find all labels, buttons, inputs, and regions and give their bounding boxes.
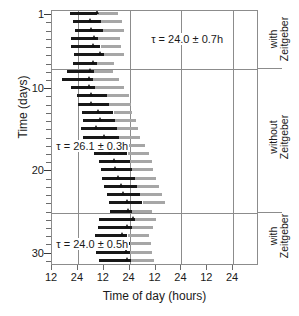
x-tick-label: 12 [91,271,115,283]
actogram-day-row [52,159,257,167]
activity-bar-light [97,12,118,15]
y-tick-label: 30 [18,247,44,259]
y-tick-major [44,14,51,15]
phase-marker-triangle [116,175,120,179]
activity-bar-light [137,185,159,188]
phase-marker-triangle [89,101,93,105]
phase-marker-triangle [91,60,95,64]
activity-bar-light [132,210,153,213]
y-tick-major [44,88,51,89]
phase-marker-triangle [112,158,116,162]
x-tick-label: 24 [65,271,89,283]
activity-bar-dark [70,12,97,15]
activity-bar-light [130,160,153,163]
actogram-day-row [52,44,257,52]
y-tick-label: 20 [18,164,44,176]
phase-marker-triangle [131,216,135,220]
activity-bar-light [117,127,139,130]
x-tick-label: 24 [220,271,244,283]
activity-bar-dark [99,218,135,221]
activity-bar-light [131,259,155,262]
actogram-day-row [52,225,257,233]
plot-area [51,10,258,265]
activity-bar-dark [78,103,109,106]
activity-bar-dark [81,127,117,130]
activity-bar-light [107,94,129,97]
activity-bar-dark [71,45,100,48]
phase-marker-triangle [125,199,129,203]
activity-bar-light [95,86,124,89]
activity-bar-light [103,29,125,32]
activity-bar-light [132,168,154,171]
activity-bar-light [135,177,156,180]
phase-marker-triangle [89,27,93,31]
x-tick [129,265,130,270]
actogram-day-row [52,184,257,192]
activity-bar-light [104,53,125,56]
activity-bar-light [97,62,114,65]
activity-bar-light [128,152,150,155]
activity-bar-light [93,78,119,81]
actogram-day-row [52,258,257,265]
phase-marker-triangle [102,134,106,138]
x-tick [103,265,104,270]
phase-marker-triangle [113,166,117,170]
tau-top-label: τ = 24.0 ± 0.7h [150,33,224,45]
phase-marker-triangle [119,183,123,187]
x-tick [155,265,156,270]
y-axis-ticks [44,10,51,265]
phase-1-text: withZeitgeber [268,17,290,61]
activity-bar-light [114,111,132,114]
actogram-day-row [52,217,257,225]
phase-1-line2: Zeitgeber [279,17,290,61]
actogram-day-row [52,85,257,93]
x-tick [180,265,181,270]
actogram-day-row [52,118,257,126]
phase-2-label: withoutZeitgeber [259,68,299,208]
phase-region-labels: withZeitgeberwithoutZeitgeberwithZeitgeb… [259,10,299,265]
phase-marker-triangle [98,51,102,55]
x-tick [206,265,207,270]
y-tick-major [44,253,51,254]
phase-1-label: withZeitgeber [259,10,299,68]
phase-3-text: withZeitgeber [268,214,290,258]
phase-2-line2: Zeitgeber [279,115,290,159]
activity-bar-dark [73,20,101,23]
phase-marker-triangle [96,109,100,113]
activity-bar-light [94,70,113,73]
x-tick [232,265,233,270]
phase-marker-triangle [94,125,98,129]
activity-bar-light [115,119,137,122]
activity-bar-light [132,226,154,229]
activity-bar-light [101,20,123,23]
actogram-day-row [52,192,257,200]
activity-bar-light [140,193,162,196]
actogram-day-row [52,77,257,85]
x-tick-label: 24 [168,271,192,283]
actogram-day-row [52,69,257,77]
x-tick-label: 24 [117,271,141,283]
activity-bar-light [101,45,122,48]
phase-marker-triangle [98,117,102,121]
activity-bar-light [128,234,150,237]
actogram-day-row [52,151,257,159]
actogram-figure: Time (days) τ = 24.0 ± 0.7hτ = 26.1 ± 0.… [0,0,299,316]
phase-marker-triangle [125,257,129,261]
actogram-day-row [52,176,257,184]
phase-marker-triangle [89,92,93,96]
activity-bar-light [143,201,166,204]
actogram-day-row [52,19,257,27]
actogram-day-row [52,52,257,60]
phase-marker-triangle [88,68,92,72]
y-tick-major [44,170,51,171]
actogram-day-row [52,93,257,101]
x-axis-ticks: 1224122412241224 [51,265,258,271]
x-tick-label: 12 [143,271,167,283]
phase-3-line2: Zeitgeber [279,214,290,258]
phase-marker-triangle [95,10,99,14]
phase-marker-triangle [126,208,130,212]
activity-bar-dark [83,136,119,139]
phase-marker-triangle [87,84,91,88]
phase-marker-triangle [87,76,91,80]
actogram-day-row [52,250,257,258]
